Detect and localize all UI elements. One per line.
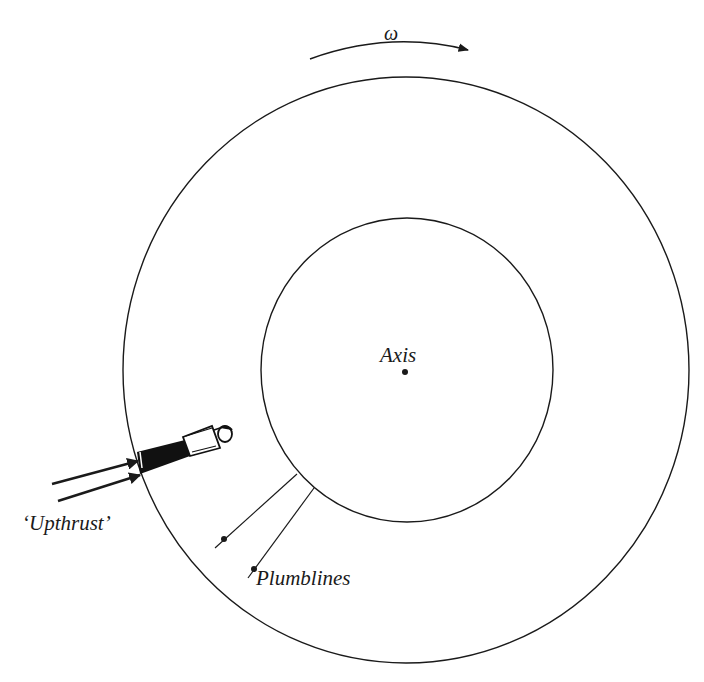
upthrust-label: ‘Upthrust’ [22, 511, 111, 535]
rotation-arrow [310, 42, 468, 59]
plumblines [215, 474, 314, 578]
person-figure [137, 426, 232, 474]
diagram-canvas: ω Axis ‘Upthrust’ [0, 0, 704, 682]
diagram-svg: ω Axis ‘Upthrust’ [0, 0, 704, 682]
upthrust-arrows [52, 461, 140, 501]
axis-point [402, 369, 408, 375]
axis-label: Axis [378, 343, 416, 367]
plumblines-label: Plumblines [255, 566, 351, 590]
omega-label: ω [384, 22, 398, 44]
